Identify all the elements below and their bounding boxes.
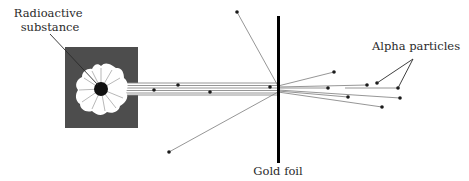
alpha-particles-label: Alpha particles xyxy=(371,39,460,53)
gold-foil-diagram: Radioactive substance Gold foil xyxy=(0,0,469,181)
gold-foil xyxy=(277,16,280,163)
source-label: Radioactive substance xyxy=(14,6,86,34)
scattered-trajectories xyxy=(169,12,400,152)
radioactive-source-core xyxy=(94,82,108,96)
alpha-beam xyxy=(112,83,278,95)
alpha-particles-leaders xyxy=(377,59,413,88)
gold-foil-label: Gold foil xyxy=(253,164,303,178)
